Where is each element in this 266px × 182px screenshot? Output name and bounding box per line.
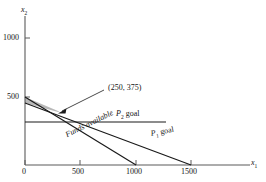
x-tick-label-1000: 1000	[126, 168, 142, 176]
x-axis-label-sub: 1	[255, 163, 258, 169]
x-tick-label-500: 500	[72, 168, 84, 176]
p2-goal-label-suffix: goal	[124, 109, 140, 118]
y-tick-label-500: 500	[7, 93, 19, 101]
y-axis-label: x2	[21, 6, 27, 16]
y-axis-label-sub: 2	[25, 10, 28, 16]
chart-figure: x2 x1 1000 500 0 500 1000 1500 (250, 375…	[0, 0, 266, 182]
x-tick-label-1500: 1500	[181, 168, 197, 176]
callout-leader-line	[62, 90, 104, 111]
point-callout-label: (250, 375)	[108, 84, 141, 92]
x-axis-label: x1	[251, 159, 257, 169]
p1-goal-label-suffix: goal	[157, 125, 174, 137]
x-tick-label-0: 0	[22, 168, 26, 176]
p2-goal-label: P2 goal	[116, 110, 139, 120]
y-tick-label-1000: 1000	[3, 34, 19, 42]
